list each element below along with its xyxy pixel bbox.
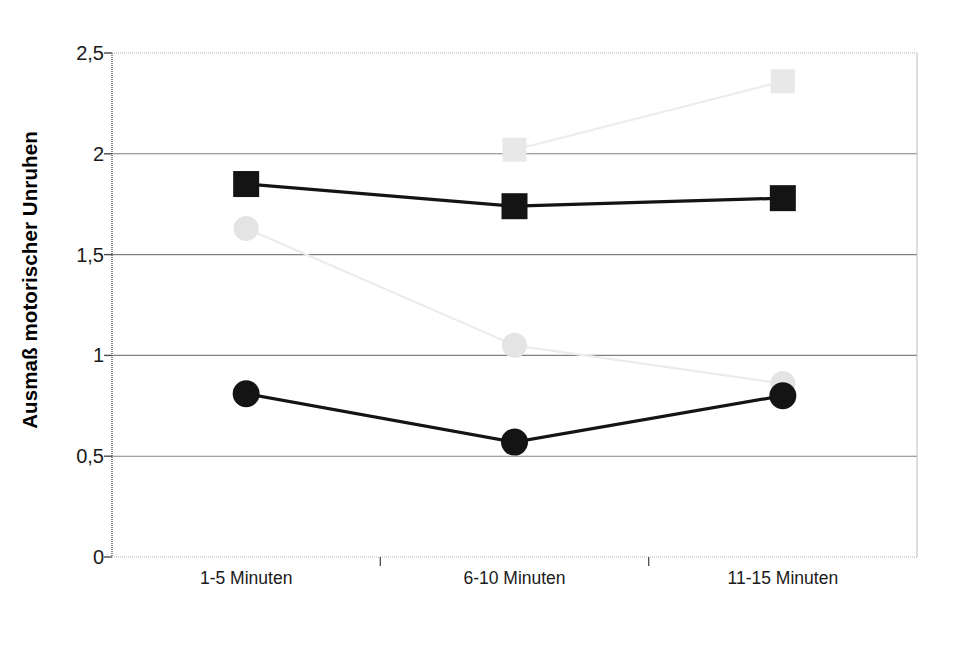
marker-circle-gray-circle-series [502,333,527,358]
x-axis-tick-labels: 1-5 Minuten6-10 Minuten11-15 Minuten [0,568,963,608]
chart-container: Ausmaß motorischer Unruhen 00,511,522,5 … [0,0,963,646]
marker-square-black-square-series [502,193,528,219]
marker-circle-black-circle-series [769,382,796,409]
marker-square-gray-square-series [503,138,527,162]
marker-square-black-square-series [233,171,259,197]
series-lines [246,81,783,442]
plot-area [0,0,963,646]
marker-circle-gray-circle-series [234,216,259,241]
marker-circle-black-circle-series [501,429,528,456]
x-tick-label: 11-15 Minuten [728,568,839,589]
marker-square-gray-square-series [771,69,795,93]
series-line-gray-circle-series [246,228,783,383]
x-tick-label: 1-5 Minuten [200,568,292,589]
axis-lines [104,53,917,566]
gridlines [112,53,917,557]
marker-circle-black-circle-series [233,380,260,407]
series-line-gray-square-series [515,81,783,150]
marker-square-black-square-series [770,185,796,211]
x-tick-label: 6-10 Minuten [463,568,565,589]
series-markers [233,69,797,455]
